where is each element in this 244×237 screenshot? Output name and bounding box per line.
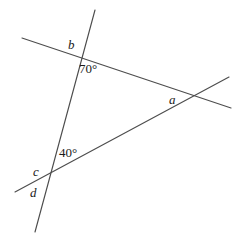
label-c: c	[33, 165, 39, 178]
label-b: b	[68, 38, 75, 51]
upper-transversal	[22, 38, 231, 108]
geometry-diagram: b 70° a 40° c d	[0, 0, 244, 237]
steep-line	[35, 10, 95, 232]
label-angle-40: 40°	[59, 146, 77, 159]
label-angle-70: 70°	[79, 62, 97, 75]
geometry-figure	[0, 0, 244, 237]
label-d: d	[30, 186, 37, 199]
lower-rising-line	[15, 77, 229, 192]
label-a: a	[169, 93, 176, 106]
